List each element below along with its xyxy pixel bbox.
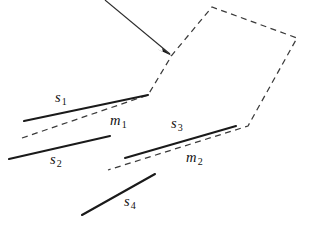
figure-canvas: s1 s2 s3 s4 m1 m2: [0, 0, 309, 225]
label-s1: s1: [55, 90, 67, 107]
segment-s4-line: [82, 174, 155, 215]
label-s1-subscript: 1: [62, 96, 67, 107]
label-s2: s2: [50, 152, 62, 169]
label-s3-base: s: [171, 115, 177, 131]
label-m1: m1: [110, 113, 127, 130]
label-m2-subscript: 2: [198, 156, 203, 167]
label-m1-subscript: 1: [122, 119, 127, 130]
label-m1-base: m: [110, 112, 120, 128]
annotation-arrow-shaft: [105, 0, 170, 54]
label-s4: s4: [124, 194, 136, 211]
dashed-boundary-polyline: [22, 7, 297, 170]
label-s3: s3: [171, 116, 183, 133]
label-s4-base: s: [124, 193, 130, 209]
label-s2-subscript: 2: [57, 158, 62, 169]
segment-s1-line: [24, 95, 148, 121]
label-s1-base: s: [55, 89, 61, 105]
figure-vector-graphic: [0, 0, 309, 225]
label-m2-base: m: [186, 149, 196, 165]
label-m2: m2: [186, 150, 203, 167]
label-s2-base: s: [50, 151, 56, 167]
label-s3-subscript: 3: [178, 122, 183, 133]
label-s4-subscript: 4: [131, 200, 136, 211]
